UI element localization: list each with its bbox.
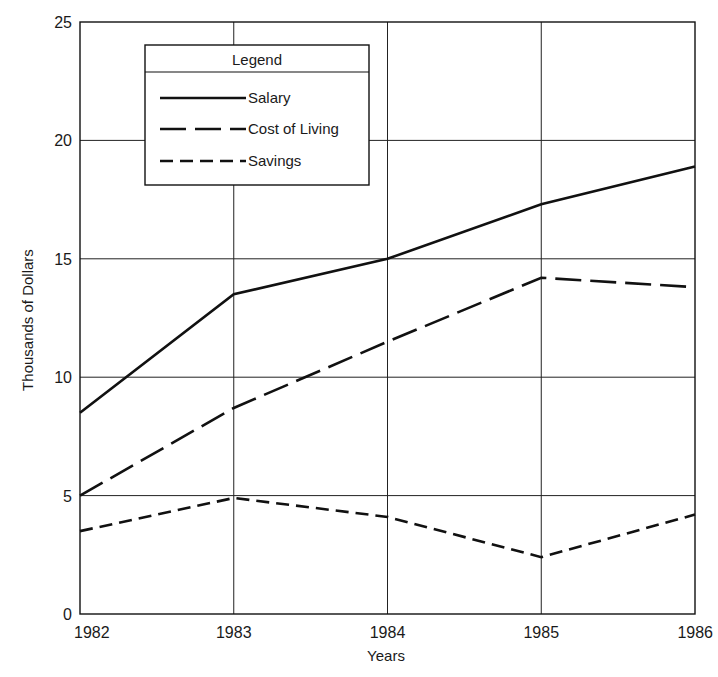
- x-axis-ticks: 19821983198419851986: [74, 624, 713, 641]
- y-tick-label: 0: [63, 606, 72, 623]
- line-chart: 0510152025 19821983198419851986 Thousand…: [0, 0, 718, 677]
- x-axis-title: Years: [367, 647, 405, 664]
- y-axis-title: Thousands of Dollars: [19, 249, 36, 391]
- legend: Legend SalaryCost of LivingSavings: [145, 45, 369, 185]
- legend-label: Salary: [248, 89, 291, 106]
- y-tick-label: 25: [54, 14, 72, 31]
- x-tick-label: 1984: [370, 624, 406, 641]
- x-tick-label: 1985: [523, 624, 559, 641]
- y-tick-label: 10: [54, 369, 72, 386]
- chart-canvas: 0510152025 19821983198419851986 Thousand…: [0, 0, 718, 677]
- x-tick-label: 1983: [216, 624, 252, 641]
- y-tick-label: 5: [63, 488, 72, 505]
- x-tick-label: 1982: [74, 624, 110, 641]
- y-tick-label: 20: [54, 132, 72, 149]
- legend-label: Cost of Living: [248, 120, 339, 137]
- x-tick-label: 1986: [677, 624, 713, 641]
- y-axis-ticks: 0510152025: [54, 14, 72, 623]
- legend-title: Legend: [232, 51, 282, 68]
- y-tick-label: 15: [54, 251, 72, 268]
- legend-label: Savings: [248, 152, 301, 169]
